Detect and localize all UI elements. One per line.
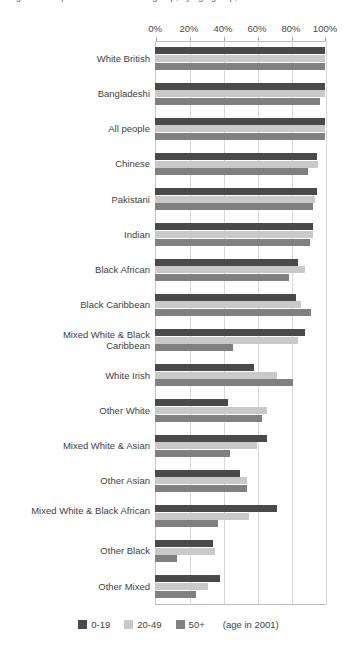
bar-group bbox=[155, 428, 325, 463]
category-label: Other Black bbox=[0, 545, 150, 557]
bar-20-49 bbox=[155, 266, 305, 273]
bar-50plus bbox=[155, 591, 196, 598]
bar-0-19 bbox=[155, 399, 228, 406]
bar-group bbox=[155, 147, 325, 182]
bar-group bbox=[155, 111, 325, 146]
bar-0-19 bbox=[155, 118, 325, 125]
bar-50plus bbox=[155, 203, 313, 210]
bar-0-19 bbox=[155, 294, 296, 301]
bar-20-49 bbox=[155, 407, 267, 414]
category-label: All people bbox=[0, 123, 150, 135]
legend-swatch bbox=[78, 620, 87, 629]
bar-50plus bbox=[155, 555, 177, 562]
bar-20-49 bbox=[155, 231, 313, 238]
bar-0-19 bbox=[155, 153, 317, 160]
bar-50plus bbox=[155, 309, 311, 316]
chart-row: Bangladeshi bbox=[0, 76, 357, 111]
bar-20-49 bbox=[155, 196, 315, 203]
bar-20-49 bbox=[155, 55, 325, 62]
bar-20-49 bbox=[155, 301, 301, 308]
bar-50plus bbox=[155, 450, 230, 457]
chart-row: Mixed White & Black Caribbean bbox=[0, 323, 357, 358]
bar-0-19 bbox=[155, 435, 267, 442]
bar-0-19 bbox=[155, 364, 254, 371]
bar-20-49 bbox=[155, 90, 325, 97]
category-label: Other Asian bbox=[0, 475, 150, 487]
bar-0-19 bbox=[155, 540, 213, 547]
x-tick-label: 60% bbox=[247, 23, 266, 34]
bar-20-49 bbox=[155, 161, 318, 168]
chart-container: Figure 2: Proportion of each ethnic grou… bbox=[0, 0, 357, 651]
chart-row: Black African bbox=[0, 252, 357, 287]
legend-item: 20-49 bbox=[124, 619, 161, 630]
legend-item: 0-19 bbox=[78, 619, 110, 630]
chart-row: Mixed White & Black African bbox=[0, 498, 357, 533]
bar-20-49 bbox=[155, 337, 298, 344]
chart-row: Mixed White & Asian bbox=[0, 428, 357, 463]
chart-row: Pakistani bbox=[0, 182, 357, 217]
x-tick-label: 80% bbox=[281, 23, 300, 34]
bar-50plus bbox=[155, 379, 293, 386]
bar-group bbox=[155, 358, 325, 393]
bar-group bbox=[155, 287, 325, 322]
chart-row: Other Asian bbox=[0, 463, 357, 498]
bar-0-19 bbox=[155, 575, 220, 582]
bar-group bbox=[155, 569, 325, 604]
bar-group bbox=[155, 182, 325, 217]
bar-50plus bbox=[155, 485, 247, 492]
legend-note: (age in 2001) bbox=[223, 619, 279, 630]
legend-item: 50+ bbox=[176, 619, 205, 630]
bar-group bbox=[155, 498, 325, 533]
bar-0-19 bbox=[155, 83, 325, 90]
chart-title-cutoff: Figure 2: Proportion of each ethnic grou… bbox=[8, 0, 353, 6]
legend-label: 50+ bbox=[189, 619, 205, 630]
chart-row: Other Mixed bbox=[0, 569, 357, 604]
bar-group bbox=[155, 41, 325, 76]
category-label: Mixed White & Black Caribbean bbox=[30, 329, 150, 352]
x-tick-label: 0% bbox=[148, 23, 162, 34]
legend-swatch bbox=[176, 620, 185, 629]
category-label: White British bbox=[0, 53, 150, 65]
bar-20-49 bbox=[155, 477, 247, 484]
bar-50plus bbox=[155, 168, 308, 175]
chart-legend: 0-1920-4950+ (age in 2001) bbox=[0, 614, 357, 634]
bar-group bbox=[155, 252, 325, 287]
legend-label: 20-49 bbox=[137, 619, 161, 630]
category-label: Black Caribbean bbox=[0, 299, 150, 311]
chart-row: Black Caribbean bbox=[0, 287, 357, 322]
chart-row: Chinese bbox=[0, 147, 357, 182]
legend-swatch bbox=[124, 620, 133, 629]
category-label: Pakistani bbox=[0, 194, 150, 206]
bar-20-49 bbox=[155, 548, 215, 555]
chart-row: All people bbox=[0, 111, 357, 146]
bar-0-19 bbox=[155, 505, 277, 512]
bar-group bbox=[155, 217, 325, 252]
bar-50plus bbox=[155, 239, 310, 246]
chart-row: White Irish bbox=[0, 358, 357, 393]
chart-row: Other Black bbox=[0, 534, 357, 569]
bar-20-49 bbox=[155, 583, 208, 590]
category-label: White Irish bbox=[0, 370, 150, 382]
bar-group bbox=[155, 534, 325, 569]
category-label: Other Mixed bbox=[0, 581, 150, 593]
bar-50plus bbox=[155, 133, 325, 140]
bar-0-19 bbox=[155, 47, 325, 54]
category-label: Indian bbox=[0, 229, 150, 241]
bar-0-19 bbox=[155, 259, 298, 266]
bar-50plus bbox=[155, 344, 233, 351]
bar-group bbox=[155, 463, 325, 498]
bar-0-19 bbox=[155, 223, 313, 230]
legend-label: 0-19 bbox=[91, 619, 110, 630]
category-label: Mixed White & Black African bbox=[30, 505, 150, 517]
bar-0-19 bbox=[155, 329, 305, 336]
x-tick-label: 20% bbox=[179, 23, 198, 34]
bar-50plus bbox=[155, 274, 289, 281]
chart-row: Indian bbox=[0, 217, 357, 252]
bar-20-49 bbox=[155, 125, 325, 132]
category-label: Other White bbox=[0, 405, 150, 417]
bar-50plus bbox=[155, 415, 262, 422]
x-tick-label: 100% bbox=[313, 23, 337, 34]
bar-20-49 bbox=[155, 442, 257, 449]
chart-row: White British bbox=[0, 41, 357, 76]
bar-50plus bbox=[155, 63, 325, 70]
